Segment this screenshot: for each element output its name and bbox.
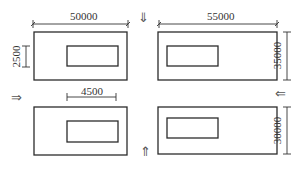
dimension-line-2500 (22, 46, 30, 67)
dimension-label-30000: 30000 (272, 117, 283, 145)
dimension-label-2500: 2500 (11, 46, 22, 68)
dimension-label-35000: 35000 (272, 42, 283, 70)
arrow-left-icon: ⇐ (275, 87, 286, 100)
dimension-line-30000 (283, 107, 291, 154)
arrow-right-icon: ⇒ (11, 91, 22, 104)
dimension-label-4500: 4500 (81, 86, 103, 97)
panel-bottom-left-outer (34, 107, 127, 155)
panel-top-left-outer (34, 32, 127, 80)
panel-bottom-left-inner (67, 121, 118, 142)
arrow-up-icon: ⇑ (140, 145, 151, 158)
panel-bottom-right-inner (167, 118, 218, 138)
dimension-label-50000: 50000 (70, 11, 98, 22)
dimension-line-35000 (283, 32, 291, 80)
panel-top-left-inner (67, 46, 118, 66)
panel-top-right-inner (167, 46, 218, 66)
arrow-down-icon: ⇓ (138, 11, 149, 24)
dimension-label-55000: 55000 (207, 11, 235, 22)
